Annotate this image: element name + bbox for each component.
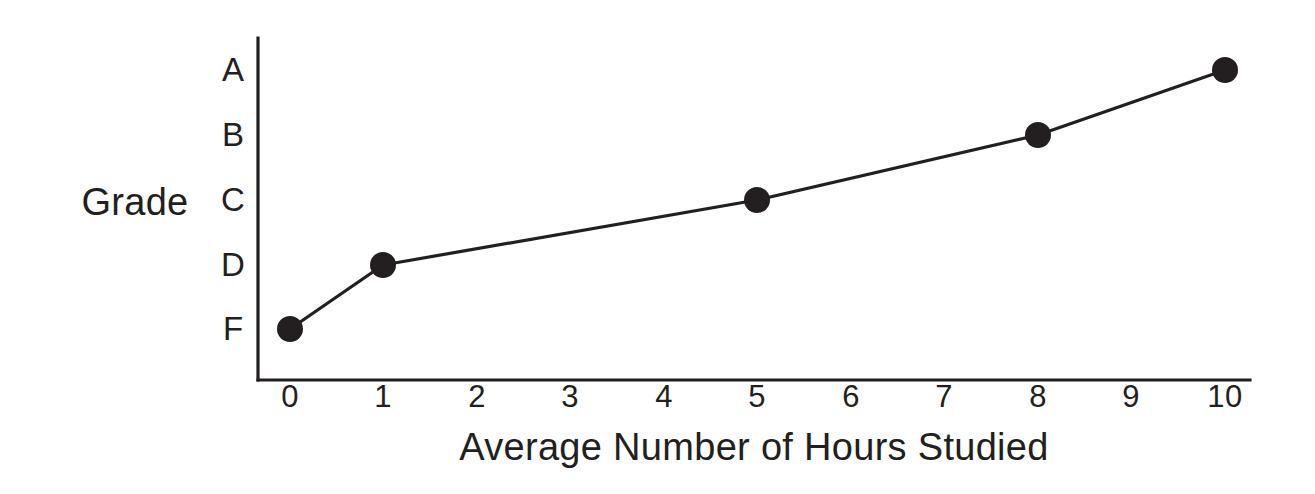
data-series-group — [277, 57, 1238, 342]
x-tick-label-10: 10 — [1207, 379, 1242, 415]
x-tick-label-4: 4 — [655, 379, 673, 415]
data-series-markers — [277, 57, 1238, 342]
x-tick-label-7: 7 — [935, 379, 953, 415]
x-tick-label-3: 3 — [561, 379, 579, 415]
x-tick-label-9: 9 — [1122, 379, 1140, 415]
y-tick-label-C: C — [221, 181, 245, 219]
x-tick-label-8: 8 — [1029, 379, 1047, 415]
y-tick-label-F: F — [223, 310, 243, 348]
data-point-marker — [1025, 122, 1051, 148]
x-tick-label-1: 1 — [374, 379, 392, 415]
x-tick-label-6: 6 — [842, 379, 860, 415]
x-tick-label-0: 0 — [281, 379, 299, 415]
y-tick-label-A: A — [222, 51, 244, 89]
chart-figure: 012345678910 ABCDF Average Number of Hou… — [0, 0, 1315, 494]
y-axis-title: Grade — [81, 181, 188, 224]
data-point-marker — [277, 316, 303, 342]
data-point-marker — [744, 187, 770, 213]
y-tick-label-D: D — [221, 246, 245, 284]
data-point-marker — [370, 252, 396, 278]
x-axis-title: Average Number of Hours Studied — [459, 426, 1048, 469]
x-tick-label-2: 2 — [468, 379, 486, 415]
chart-plot-area — [0, 0, 1315, 494]
data-point-marker — [1212, 57, 1238, 83]
x-tick-label-5: 5 — [748, 379, 766, 415]
y-tick-label-B: B — [222, 116, 244, 154]
